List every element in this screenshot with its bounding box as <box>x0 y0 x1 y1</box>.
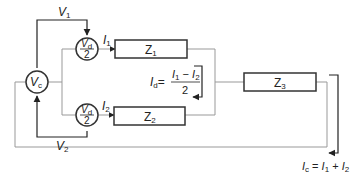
i1-label: I1 <box>103 33 111 48</box>
svg-text:Ic = I1 + I2: Ic = I1 + I2 <box>302 160 350 174</box>
svg-text:2: 2 <box>84 49 90 60</box>
wiring <box>15 49 327 147</box>
z3-box: Z3 <box>244 73 316 91</box>
v1-label: V1 <box>58 5 71 20</box>
svg-text:Id=: Id= <box>150 75 165 90</box>
svg-text:I1 − I2: I1 − I2 <box>172 68 200 82</box>
z2-box: Z2 <box>114 107 185 125</box>
v2-label: V2 <box>56 139 69 154</box>
ic-arrow <box>329 75 338 153</box>
vd-half-source-top: Vd 2 <box>76 38 98 60</box>
vd-half-source-bottom: Vd 2 <box>76 104 98 126</box>
svg-text:2: 2 <box>84 115 90 126</box>
ic-equation: Ic = I1 + I2 <box>302 160 350 174</box>
z1-box: Z1 <box>115 40 187 58</box>
circuit-diagram: Vc Vd 2 Vd 2 Z1 Z2 Z3 V1 V2 I1 I2 Id= I1… <box>0 0 361 181</box>
id-equation: Id= I1 − I2 2 <box>150 68 200 96</box>
svg-text:2: 2 <box>182 84 188 96</box>
vc-source: Vc <box>26 71 48 93</box>
i2-label: I2 <box>102 99 110 114</box>
